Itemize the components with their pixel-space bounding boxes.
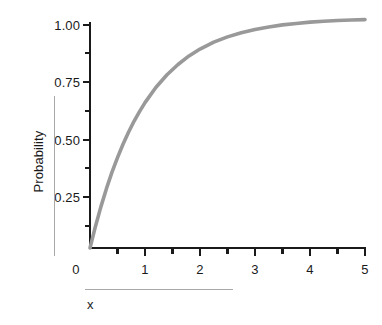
y-axis-title: Probability — [31, 96, 46, 228]
y-tick-label-2: 0.75 — [44, 76, 80, 89]
chart-figure: 1.00 0.75 0.50 0.25 0 1 2 3 4 5 Probabil… — [0, 0, 382, 325]
x-tick-label-1: 1 — [141, 263, 148, 276]
x-axis-title-rule — [85, 289, 233, 290]
y-axis-title-rule — [54, 96, 55, 256]
y-axis-title-group: Probability — [14, 96, 60, 256]
x-tick-label-3: 3 — [251, 263, 258, 276]
x-tick-label-2: 2 — [196, 263, 203, 276]
x-axis-title: x — [87, 298, 94, 311]
x-tick-label-5: 5 — [361, 263, 368, 276]
data-series-line — [90, 20, 365, 248]
x-tick-label-0: 0 — [72, 263, 79, 276]
y-tick-label-1: 1.00 — [44, 19, 80, 32]
x-tick-label-4: 4 — [306, 263, 313, 276]
